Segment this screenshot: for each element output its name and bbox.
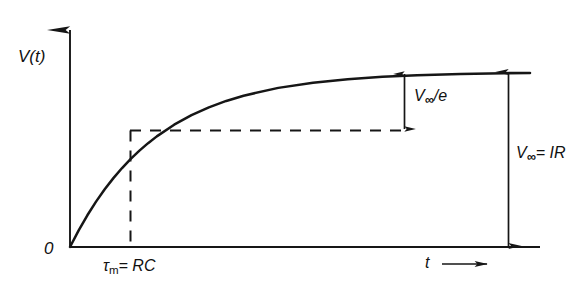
vinf-over-e-rest: /e (434, 87, 447, 104)
vinf-over-e-label: V∞/e (414, 88, 447, 107)
y-axis-label: V(t) (18, 48, 45, 65)
origin-label: 0 (44, 240, 53, 257)
x-axis-label: t (425, 255, 429, 271)
x-axis-label-text: t (425, 254, 429, 271)
tau-subscript: m (109, 264, 119, 276)
figure-root: V(t) 0 τm= RC t V∞/e V∞= IR (0, 0, 586, 290)
vinf-equals-ir-label: V∞= IR (516, 145, 566, 164)
curve-group (70, 73, 530, 247)
axes-group (70, 30, 540, 247)
infinity-subscript: ∞ (527, 149, 536, 164)
v-symbol: V (516, 144, 527, 161)
voltage-curve (70, 73, 530, 247)
tau-equation-rest: = RC (119, 257, 156, 274)
tau-axis-label: τm= RC (103, 258, 155, 277)
infinity-subscript: ∞ (425, 92, 434, 107)
v-symbol: V (414, 87, 425, 104)
vinf-ir-rest: = IR (536, 144, 566, 161)
tau-guides-group (130, 131, 404, 248)
plot-canvas (0, 0, 586, 290)
